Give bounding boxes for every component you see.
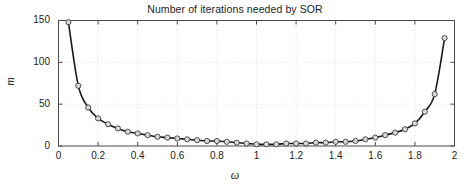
data-point-marker <box>76 83 81 88</box>
data-point-marker <box>343 139 348 144</box>
data-point-marker <box>185 137 190 142</box>
data-point-marker <box>294 141 299 146</box>
data-point-marker <box>96 116 101 121</box>
data-point-marker <box>86 105 91 110</box>
y-axis-label: m <box>3 77 18 86</box>
data-point-marker <box>105 122 110 127</box>
x-tick-label: 0.6 <box>164 150 190 161</box>
data-point-marker <box>115 126 120 131</box>
data-point-marker <box>125 129 130 134</box>
data-point-marker <box>145 133 150 138</box>
data-point-marker <box>373 135 378 140</box>
data-point-marker <box>165 135 170 140</box>
data-point-marker <box>402 127 407 132</box>
x-axis-label: ω <box>0 168 470 183</box>
x-tick-label: 1.6 <box>362 150 388 161</box>
y-tick-label: 50 <box>24 98 50 109</box>
figure-canvas: Number of iterations needed by SOR m ω 0… <box>0 0 470 189</box>
x-tick-label: 1.2 <box>283 150 309 161</box>
data-point-marker <box>274 142 279 147</box>
data-point-marker <box>333 139 338 144</box>
data-point-marker <box>422 109 427 114</box>
data-point-marker <box>313 140 318 145</box>
y-tick-label: 100 <box>24 56 50 67</box>
data-point-marker <box>303 141 308 146</box>
y-tick-label: 0 <box>24 140 50 151</box>
data-point-marker <box>264 142 269 147</box>
x-tick-label: 0.4 <box>125 150 151 161</box>
data-point-marker <box>383 133 388 138</box>
data-point-marker <box>224 139 229 144</box>
data-point-marker <box>214 138 219 143</box>
x-tick-label: 1.8 <box>402 150 428 161</box>
data-point-marker <box>412 121 417 126</box>
x-tick-label: 2 <box>442 150 468 161</box>
data-point-marker <box>175 136 180 141</box>
data-point-marker <box>284 141 289 146</box>
x-tick-label: 0.8 <box>204 150 230 161</box>
data-point-marker <box>234 140 239 145</box>
data-point-marker <box>393 130 398 135</box>
data-point-marker <box>323 140 328 145</box>
data-point-marker <box>254 142 259 147</box>
data-point-marker <box>244 141 249 146</box>
data-point-marker <box>135 131 140 136</box>
data-point-marker <box>353 138 358 143</box>
y-tick-label: 150 <box>24 14 50 25</box>
data-point-marker <box>66 20 71 25</box>
data-point-marker <box>432 92 437 97</box>
data-point-marker <box>363 137 368 142</box>
data-point-marker <box>442 35 447 40</box>
data-point-marker <box>195 138 200 143</box>
x-tick-label: 0 <box>46 150 72 161</box>
data-point-marker <box>155 134 160 139</box>
data-point-marker <box>204 138 209 143</box>
x-tick-label: 1 <box>244 150 270 161</box>
x-tick-label: 1.4 <box>323 150 349 161</box>
x-tick-label: 0.2 <box>85 150 111 161</box>
